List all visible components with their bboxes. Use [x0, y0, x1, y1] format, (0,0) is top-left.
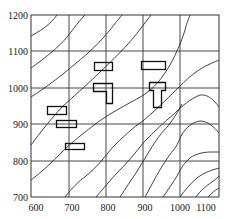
contour-line [196, 176, 219, 197]
contour-line [31, 15, 85, 68]
contour-line [145, 121, 219, 197]
y-tick-label: 700 [13, 192, 28, 203]
contour-line [163, 152, 219, 197]
y-tick-label: 800 [13, 156, 28, 167]
x-tick-label: 800 [101, 202, 116, 213]
y-tick-label: 1100 [8, 46, 28, 57]
x-tick-label: 900 [138, 202, 153, 213]
contour-line [31, 15, 190, 180]
x-tick-label: 700 [65, 202, 80, 213]
contour-line [65, 60, 219, 197]
y-tick-label: 1000 [8, 83, 28, 94]
x-tick-label: 1100 [196, 202, 216, 213]
contour-line [31, 15, 57, 36]
buildings [48, 62, 166, 150]
building-t-shape [150, 83, 166, 108]
y-axis-labels: 1200 1100 1000 900 800 700 [8, 10, 28, 203]
building-l-shape [94, 84, 113, 104]
x-axis-labels: 600 700 800 900 1000 1100 [29, 202, 216, 213]
contour-map-svg: 1200 1100 1000 900 800 700 600 700 800 9… [0, 0, 231, 219]
contour-line [31, 15, 151, 145]
building-rect-4 [95, 63, 113, 71]
building-rect-1 [48, 107, 67, 115]
x-tick-label: 600 [29, 202, 44, 213]
contour-line [208, 188, 219, 197]
y-tick-label: 1200 [8, 10, 28, 21]
building-rect-6 [142, 62, 166, 70]
contour-map-figure: 1200 1100 1000 900 800 700 600 700 800 9… [0, 0, 231, 219]
y-tick-label: 900 [13, 119, 28, 130]
x-tick-label: 1000 [170, 202, 190, 213]
